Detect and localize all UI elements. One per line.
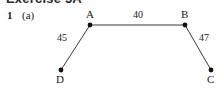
edge-weight-A-B: 40: [133, 10, 143, 20]
node-dot-D: [59, 68, 64, 73]
node-dot-B: [183, 23, 188, 28]
node-label-A: A: [86, 9, 94, 20]
node-label-C: C: [207, 74, 214, 85]
node-label-B: B: [181, 9, 188, 20]
node-label-D: D: [56, 74, 64, 85]
node-dot-C: [209, 68, 214, 73]
trapezium-diagram: [0, 0, 224, 90]
edge-weight-B-C: 47: [199, 33, 209, 43]
edge-weight-A-D: 45: [57, 33, 67, 43]
node-dot-A: [88, 23, 93, 28]
figure-canvas: Exercise 5A 1 (a) A B C D 40 45 47: [0, 0, 224, 90]
